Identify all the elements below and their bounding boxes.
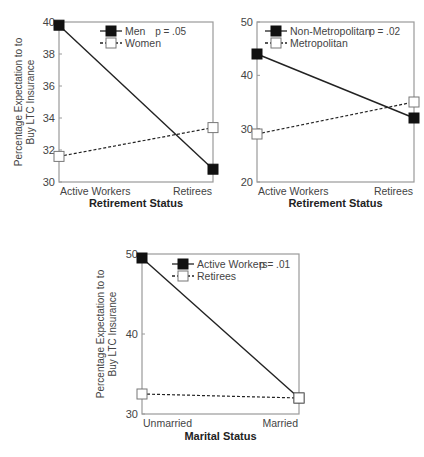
charts-figure: 303234363840Active WorkersRetireesRetire… bbox=[0, 0, 424, 457]
legend-label: Active Workers bbox=[197, 258, 267, 270]
p-value-annotation: p = .01 bbox=[259, 259, 290, 270]
y-axis-title: Percentage Expectation to toBuy LTC Insu… bbox=[95, 269, 118, 398]
legend-entry: Non-Metropolitan bbox=[265, 25, 371, 37]
chart-1: 303234363840Active WorkersRetireesRetire… bbox=[13, 16, 218, 209]
legend-marker-icon bbox=[178, 271, 188, 281]
y-tick-label: 50 bbox=[126, 248, 138, 260]
legend-label: Non-Metropolitan bbox=[290, 25, 371, 37]
legend-label: Women bbox=[125, 37, 161, 49]
series-women bbox=[54, 123, 218, 162]
x-category-label: Retirees bbox=[374, 185, 413, 197]
legend-entry: Men bbox=[100, 25, 146, 37]
series-non-metropolitan bbox=[252, 49, 419, 123]
legend-entry: Women bbox=[100, 37, 161, 49]
series-line bbox=[257, 102, 414, 134]
open-square-marker bbox=[294, 393, 304, 403]
y-tick-label: 50 bbox=[241, 16, 253, 28]
filled-square-marker bbox=[252, 49, 262, 59]
series-line bbox=[257, 54, 414, 118]
y-tick-label: 30 bbox=[43, 176, 55, 188]
series-retirees bbox=[137, 389, 304, 403]
open-square-marker bbox=[252, 129, 262, 139]
legend-marker-icon bbox=[178, 259, 188, 269]
y-tick-label: 20 bbox=[241, 176, 253, 188]
y-axis-title: Percentage Expectation to toBuy LTC Insu… bbox=[13, 37, 36, 166]
y-tick-label: 32 bbox=[43, 144, 55, 156]
y-tick-label: 30 bbox=[126, 408, 138, 420]
filled-square-marker bbox=[137, 253, 147, 263]
x-axis-title: Retirement Status bbox=[89, 197, 183, 209]
x-category-label: Active Workers bbox=[60, 185, 130, 197]
legend-marker-icon bbox=[271, 26, 281, 36]
chart-2: 20304050Active WorkersRetireesRetirement… bbox=[241, 16, 419, 209]
p-value-annotation: p = .05 bbox=[155, 26, 186, 37]
legend-label: Men bbox=[125, 25, 146, 37]
legend-entry: Retirees bbox=[172, 270, 236, 282]
open-square-marker bbox=[208, 123, 218, 133]
x-axis-title: Marital Status bbox=[184, 430, 256, 442]
legend-entry: Metropolitan bbox=[265, 37, 348, 49]
series-metropolitan bbox=[252, 97, 419, 139]
open-square-marker bbox=[409, 97, 419, 107]
open-square-marker bbox=[137, 389, 147, 399]
x-category-label: Retirees bbox=[173, 185, 212, 197]
series-line bbox=[142, 394, 299, 398]
y-tick-label: 40 bbox=[126, 328, 138, 340]
y-tick-label: 30 bbox=[241, 123, 253, 135]
legend-entry: Active Workers bbox=[172, 258, 267, 270]
y-tick-label: 36 bbox=[43, 80, 55, 92]
filled-square-marker bbox=[208, 164, 218, 174]
legend-marker-icon bbox=[271, 38, 281, 48]
open-square-marker bbox=[54, 151, 64, 161]
y-tick-label: 34 bbox=[43, 112, 55, 124]
x-axis-title: Retirement Status bbox=[288, 197, 382, 209]
filled-square-marker bbox=[409, 113, 419, 123]
y-tick-label: 38 bbox=[43, 48, 55, 60]
y-tick-label: 40 bbox=[241, 69, 253, 81]
p-value-annotation: p = .02 bbox=[369, 26, 400, 37]
x-category-label: Active Workers bbox=[258, 185, 328, 197]
legend-label: Metropolitan bbox=[290, 37, 348, 49]
legend-marker-icon bbox=[106, 38, 116, 48]
x-category-label: Married bbox=[262, 417, 298, 429]
legend-label: Retirees bbox=[197, 270, 236, 282]
y-tick-label: 40 bbox=[43, 16, 55, 28]
series-line bbox=[59, 128, 213, 157]
legend-marker-icon bbox=[106, 26, 116, 36]
filled-square-marker bbox=[54, 20, 64, 30]
chart-3: 304050UnmarriedMarriedMarital StatusPerc… bbox=[95, 248, 304, 442]
x-category-label: Unmarried bbox=[143, 417, 192, 429]
